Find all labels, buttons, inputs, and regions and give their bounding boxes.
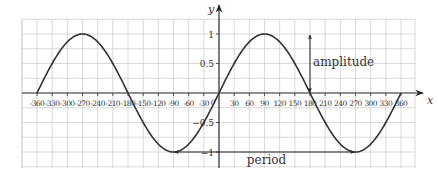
x-tick-label: 90 [260,99,269,108]
x-tick-label: 240 [334,99,347,108]
x-tick-label: 330 [380,99,393,108]
y-axis-label: y [207,3,215,16]
x-axis-label: x [427,94,434,107]
x-tick-label: -240 [90,99,105,108]
x-tick-label: -90 [168,99,179,108]
x-tick-label: 210 [319,99,332,108]
x-tick-label: -330 [45,99,60,108]
x-tick-label: -30 [199,99,210,108]
x-tick-label: -210 [106,99,121,108]
sine-graph: xy -360-330-300-270-240-210-180-150-120-… [0,0,438,175]
x-tick-label: 300 [364,99,377,108]
y-tick-label: 0.5 [200,59,215,69]
x-tick-label: -300 [60,99,75,108]
x-tick-label: -60 [184,99,195,108]
amplitude-label: amplitude [313,55,374,69]
x-tick-label: -150 [136,99,151,108]
x-tick-label: -270 [75,99,90,108]
period-label: period [247,153,287,167]
x-tick-label: 60 [245,99,254,108]
x-tick-label: 30 [230,99,239,108]
x-tick-label: 150 [289,99,302,108]
x-tick-label: -120 [151,99,166,108]
x-tick-label: 120 [273,99,286,108]
x-tick-label: 270 [349,99,362,108]
y-tick-label: 1 [208,30,214,40]
x-tick-label: -360 [30,99,45,108]
